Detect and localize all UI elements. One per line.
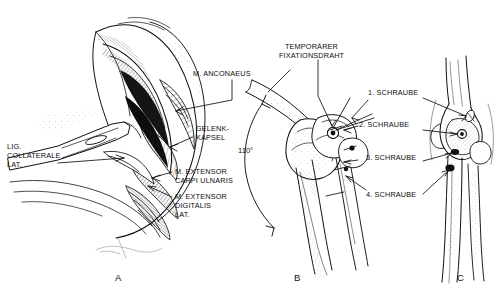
panel-a-artwork [8,17,205,258]
panel-letter-c: C [457,272,464,283]
label-schraube-4: 4. SCHRAUBE [366,191,416,200]
panel-letter-a: A [115,272,122,283]
panel-b-artwork [245,80,374,276]
label-schraube-1: 1. SCHRAUBE [368,89,418,98]
panel-c-artwork [430,56,493,283]
label-schraube-2: 2. SCHRAUBE [359,121,409,130]
label-kapsel: KAPSEL [196,134,225,143]
label-carpi-ulnaris: CARPI ULNARIS [175,177,233,186]
label-fixationsdraht: FIXATIONSDRAHT [279,52,344,61]
label-flexion-angle: 110° [238,146,253,155]
label-m-anconaeus: M. ANCONAEUS [193,70,251,79]
label-schraube-3: 3. SCHRAUBE [366,154,416,163]
panel-letter-b: B [294,272,301,283]
anatomical-figure: M. ANCONAEUS GELENK- KAPSEL LIG. COLLATE… [0,0,496,296]
label-lat-2: LAT. [175,211,190,220]
label-lat: LAT. [7,161,22,170]
